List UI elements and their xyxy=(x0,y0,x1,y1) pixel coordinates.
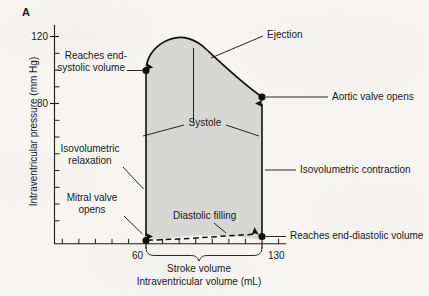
stroke-volume-bracket xyxy=(146,247,262,261)
annotation-reaches-end-diastolic-volume: Reaches end-diastolic volume xyxy=(290,230,423,242)
x-axis-title: Intraventricular volume (mL) xyxy=(119,276,279,288)
annotation-mitral-valve-opens-line1: Mitral valve xyxy=(56,192,128,204)
annotation-aortic-valve-opens: Aortic valve opens xyxy=(332,91,414,103)
stroke-volume-label: Stroke volume xyxy=(149,263,249,275)
x-tick-label-130: 130 xyxy=(268,250,285,261)
leader-ejection xyxy=(211,36,263,58)
annotation-isovolumetric-contraction: Isovolumetric contraction xyxy=(300,164,411,176)
x-tick-label-60: 60 xyxy=(132,250,143,261)
point-reaches-end-diastolic-volume xyxy=(258,233,265,240)
y-tick-label-80: 80 xyxy=(22,98,48,109)
annotation-diastolic-filling: Diastolic filling xyxy=(173,210,236,222)
leader-mitral-valve-opens xyxy=(124,216,143,234)
annotation-reaches-end-systolic-volume-line2: systolic volume xyxy=(37,62,125,74)
annotation-isovolumetric-relaxation-line1: Isovolumetric xyxy=(52,143,128,155)
annotation-isovolumetric-relaxation-line2: relaxation xyxy=(52,155,128,167)
annotation-systole: Systole xyxy=(184,117,226,129)
point-aortic-valve-opens xyxy=(258,93,265,100)
point-reaches-end-systolic-volume xyxy=(142,67,149,74)
leader-isovolumetric-relaxation xyxy=(123,167,144,189)
annotation-reaches-end-systolic-volume-line1: Reaches end- xyxy=(37,50,127,62)
annotation-mitral-valve-opens-line2: opens xyxy=(56,204,128,216)
point-mitral-valve-opens xyxy=(142,237,149,244)
y-tick-label-120: 120 xyxy=(22,31,48,42)
panel-letter: A xyxy=(22,6,30,18)
annotation-ejection: Ejection xyxy=(267,29,303,41)
